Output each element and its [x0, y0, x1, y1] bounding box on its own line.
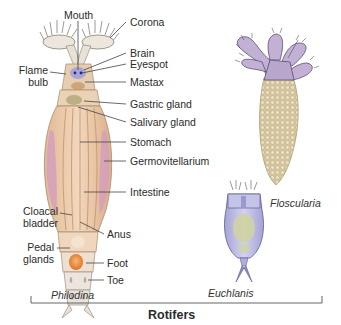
gastric-gland-icon [66, 95, 82, 105]
label-corona: Corona [130, 16, 164, 28]
euchlanis-gut-icon [233, 214, 255, 242]
euchlanis-illustration [225, 180, 264, 282]
specimen-name-philodina: Philodina [51, 289, 94, 301]
label-flame-bulb-line1: Flame [14, 64, 48, 76]
label-mouth: Mouth [64, 9, 93, 21]
label-cloacal-bladder-line1: Cloacal [10, 205, 58, 217]
label-mastax: Mastax [130, 76, 164, 88]
label-flame-bulb-line2: bulb [14, 76, 48, 88]
floscularia-tube [260, 78, 299, 185]
label-toe: Toe [107, 274, 124, 286]
mastax-icon [71, 82, 85, 90]
label-intestine: Intestine [130, 186, 170, 198]
label-cloacal-bladder-line2: bladder [10, 217, 58, 229]
label-eyespot: Eyespot [130, 58, 168, 70]
label-salivary-gland: Salivary gland [130, 116, 196, 128]
label-foot: Foot [107, 257, 128, 269]
label-gastric-gland: Gastric gland [130, 98, 192, 110]
label-stomach: Stomach [130, 136, 171, 148]
label-germovitellarium: Germovitellarium [130, 155, 209, 167]
floscularia-corona-icon [237, 34, 312, 80]
intestine-icon [71, 236, 85, 248]
rotifer-diagram: Mouth Corona Brain Eyespot Flame bulb Ma… [0, 0, 341, 325]
eyespot-icon [74, 72, 77, 75]
cloacal-bladder-icon [69, 254, 83, 270]
label-pedal-glands-line1: Pedal [14, 241, 54, 253]
figure-title: Rotifers [148, 308, 195, 322]
specimen-name-floscularia: Floscularia [270, 197, 321, 209]
corona-icon [40, 20, 119, 66]
specimen-name-euchlanis: Euchlanis [208, 287, 254, 299]
label-anus: Anus [107, 228, 131, 240]
label-pedal-glands-line2: glands [14, 253, 54, 265]
floscularia-illustration [235, 28, 319, 185]
toe-icon [62, 305, 72, 318]
